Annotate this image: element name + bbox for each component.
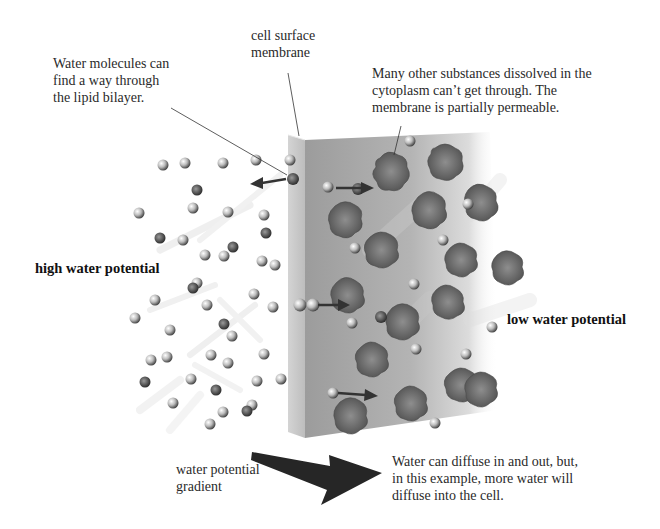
low-water-potential-label: low water potential bbox=[507, 311, 626, 328]
other-substances-label: Many other substances dissolved in the c… bbox=[372, 65, 592, 116]
high-water-potential-label: high water potential bbox=[35, 260, 160, 277]
diffusion-note-label: Water can diffuse in and out, but, in th… bbox=[392, 453, 578, 504]
osmosis-diagram: Water molecules can find a way through t… bbox=[0, 0, 660, 529]
water-molecules-label: Water molecules can find a way through t… bbox=[53, 55, 169, 106]
membrane-label: cell surface membrane bbox=[251, 27, 315, 61]
gradient-arrow bbox=[251, 452, 382, 505]
gradient-label: water potential gradient bbox=[176, 461, 260, 495]
